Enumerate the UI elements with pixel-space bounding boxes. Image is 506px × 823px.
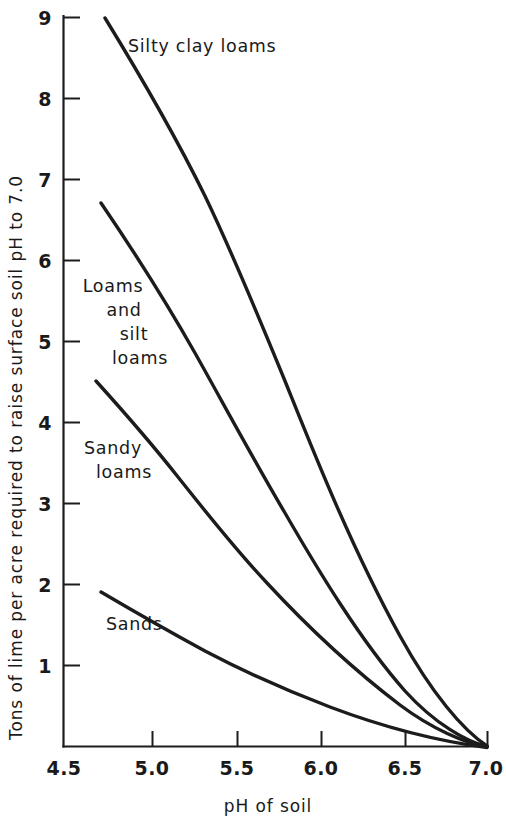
chart-canvas: 9 8 7 6 5 4 3 2 1 4.5 5.0 5.5 6.0 6.5 7.… xyxy=(0,0,506,823)
y-axis-tick-labels: 9 8 7 6 5 4 3 2 1 xyxy=(38,7,52,677)
y-tick-label-3: 3 xyxy=(38,493,52,515)
data-curves xyxy=(96,18,487,748)
label-silty-clay-loams: Silty clay loams xyxy=(128,36,276,56)
label-loams-line-2: and xyxy=(106,300,141,320)
y-tick-label-5: 5 xyxy=(38,331,52,353)
y-tick-label-7: 7 xyxy=(38,169,52,191)
label-sands: Sands xyxy=(106,614,163,634)
x-axis-title: pH of soil xyxy=(224,796,312,816)
y-tick-label-6: 6 xyxy=(38,250,52,272)
y-tick-label-9: 9 xyxy=(38,7,52,29)
x-tick-label-7-0: 7.0 xyxy=(468,757,503,779)
label-loams-line-4: loams xyxy=(112,348,168,368)
label-loams-line-1: Loams xyxy=(83,276,144,296)
x-tick-label-6-0: 6.0 xyxy=(303,757,338,779)
x-tick-label-5-0: 5.0 xyxy=(134,757,169,779)
y-tick-label-8: 8 xyxy=(38,88,52,110)
label-loams-line-3: silt xyxy=(120,324,149,344)
y-tick-label-4: 4 xyxy=(38,412,52,434)
curve-silty-clay-loams xyxy=(105,18,487,746)
series-annotations: Silty clay loams Loams and silt loams Sa… xyxy=(83,36,277,634)
y-tick-label-2: 2 xyxy=(38,574,52,596)
y-tick-label-1: 1 xyxy=(38,655,52,677)
x-tick-label-5-5: 5.5 xyxy=(219,757,254,779)
x-tick-label-4-5: 4.5 xyxy=(46,757,81,779)
curve-loams-and-silt-loams xyxy=(101,203,487,747)
x-tick-label-6-5: 6.5 xyxy=(387,757,422,779)
x-axis-tick-labels: 4.5 5.0 5.5 6.0 6.5 7.0 xyxy=(46,757,503,779)
y-axis-ticks xyxy=(64,18,81,666)
y-axis-title: Tons of lime per acre required to raise … xyxy=(6,175,26,741)
label-sandy-loams-line-2: loams xyxy=(96,462,152,482)
axis-lines xyxy=(64,16,488,747)
lime-requirement-chart: 9 8 7 6 5 4 3 2 1 4.5 5.0 5.5 6.0 6.5 7.… xyxy=(0,0,506,823)
label-sandy-loams-line-1: Sandy xyxy=(84,438,142,458)
